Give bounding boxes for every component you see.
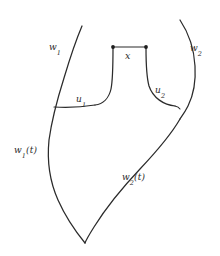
diagram-svg [0,0,220,256]
label-w2-sub: 2 [198,50,202,58]
label-w1t-base: w [14,145,22,155]
label-u1: u1 [76,95,86,104]
label-w1-of-t: w1(t) [14,146,37,155]
label-u2: u2 [155,86,165,95]
outer-right-boundary-curve [180,20,195,119]
outer-left-boundary-curve [48,26,85,243]
u2-connector [175,106,180,109]
label-w2-base: w [190,43,198,53]
label-w1t-sub: 1 [22,152,26,160]
label-w2t-suffix: (t) [134,172,145,182]
label-w1t-suffix: (t) [26,145,37,155]
label-w1-base: w [49,42,57,52]
label-w2t-sub: 2 [130,179,134,187]
label-w2t-base: w [122,172,130,182]
label-w2: w2 [190,44,202,53]
label-u2-sub: 2 [161,92,165,100]
label-w2-of-t: w2(t) [122,173,145,182]
label-x-base: x [125,50,130,61]
label-u1-sub: 1 [82,101,86,109]
label-w1-sub: 1 [57,49,61,57]
notch-left-stem [95,48,113,105]
label-x: x [125,51,130,61]
label-w1: w1 [49,43,61,52]
u1-line [54,105,95,107]
figure-canvas: w1 w2 x u1 u2 w1(t) w2(t) [0,0,220,256]
x-right-endpoint-dot [144,45,148,49]
x-left-endpoint-dot [111,45,115,49]
